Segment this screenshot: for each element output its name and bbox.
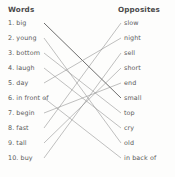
- word-item[interactable]: 1.big: [8, 19, 27, 27]
- opposite-item[interactable]: small: [124, 94, 142, 102]
- word-item-number: 5.: [8, 79, 14, 87]
- word-item[interactable]: 4.laugh: [8, 64, 35, 72]
- word-item-number: 8.: [8, 124, 14, 132]
- opposite-item[interactable]: top: [124, 109, 135, 117]
- word-item[interactable]: 5.day: [8, 79, 28, 87]
- match-line: [44, 23, 121, 128]
- word-item-label: young: [16, 34, 36, 42]
- word-item[interactable]: 6.in front of: [8, 94, 49, 102]
- word-item-label: buy: [20, 154, 32, 162]
- word-item[interactable]: 2.young: [8, 34, 37, 42]
- word-item[interactable]: 9.tall: [8, 139, 27, 147]
- column-header-words: Words: [8, 5, 34, 14]
- word-item[interactable]: 7.begin: [8, 109, 35, 117]
- word-item-label: day: [16, 79, 28, 87]
- opposite-item[interactable]: old: [124, 139, 134, 147]
- word-item-label: fast: [16, 124, 28, 132]
- word-item-label: laugh: [16, 64, 34, 72]
- word-item-label: begin: [16, 109, 34, 117]
- matching-worksheet: Words Opposites 1.big2.young3.bottom4.la…: [0, 0, 175, 177]
- opposite-item[interactable]: cry: [124, 124, 134, 132]
- word-item-number: 6.: [8, 94, 14, 102]
- word-item[interactable]: 10.buy: [8, 154, 33, 162]
- word-item-label: bottom: [16, 49, 40, 57]
- column-header-opposites: Opposites: [118, 5, 160, 14]
- word-item-number: 9.: [8, 139, 14, 147]
- word-item-label: big: [16, 19, 26, 27]
- match-line: [44, 68, 121, 128]
- match-line: [44, 53, 121, 113]
- word-item-number: 4.: [8, 64, 14, 72]
- match-line: [44, 38, 121, 143]
- word-item-number: 3.: [8, 49, 14, 57]
- opposite-item[interactable]: night: [124, 34, 141, 42]
- word-item[interactable]: 3.bottom: [8, 49, 40, 57]
- match-line: [44, 53, 121, 158]
- match-line: [44, 98, 121, 158]
- match-line: [44, 23, 121, 98]
- word-item[interactable]: 8.fast: [8, 124, 29, 132]
- match-line: [44, 38, 121, 83]
- word-item-number: 7.: [8, 109, 14, 117]
- word-item-number: 2.: [8, 34, 14, 42]
- word-item-number: 10.: [8, 154, 18, 162]
- match-line: [44, 68, 121, 143]
- word-item-number: 1.: [8, 19, 14, 27]
- opposite-item[interactable]: sell: [124, 49, 135, 57]
- opposite-item[interactable]: end: [124, 79, 136, 87]
- opposite-item[interactable]: slow: [124, 19, 139, 27]
- word-item-label: in front of: [16, 94, 48, 102]
- match-line: [44, 83, 121, 113]
- opposite-item[interactable]: in back of: [124, 154, 156, 162]
- opposite-item[interactable]: short: [124, 64, 141, 72]
- word-item-label: tall: [16, 139, 26, 147]
